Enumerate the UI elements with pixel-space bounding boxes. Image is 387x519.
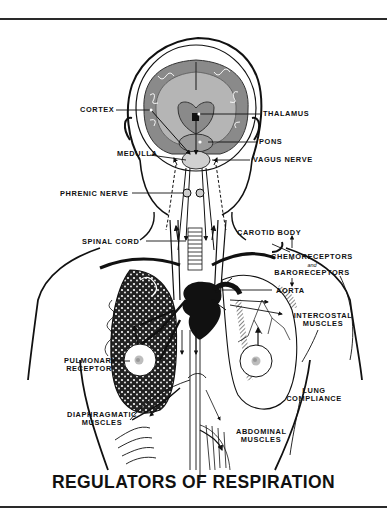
label-vagus-nerve: VAGUS NERVE <box>253 156 313 164</box>
trachea <box>188 228 202 270</box>
diagram-title: REGULATORS OF RESPIRATION <box>0 472 387 493</box>
label-lung-compliance: LUNG COMPLIANCE <box>284 387 344 403</box>
left-lung <box>105 270 177 413</box>
label-medulla: MEDULLA <box>117 150 157 158</box>
label-cortex: CORTEX <box>80 106 114 114</box>
label-diaphragmatic-muscles: DIAPHRAGMATIC MUSCLES <box>66 411 138 427</box>
label-chemo-baro-receptors: CHEMORECEPTORS and BARORECEPTORS <box>270 253 354 277</box>
label-phrenic-nerve: PHRENIC NERVE <box>60 190 128 198</box>
right-clavicle <box>212 254 275 265</box>
label-carotid-body: CAROTID BODY <box>237 229 301 237</box>
left-clavicle <box>100 259 180 268</box>
label-abdominal-line2: MUSCLES <box>236 436 286 444</box>
label-spinal-cord: SPINAL CORD <box>82 238 139 246</box>
label-diaphragmatic-line2: MUSCLES <box>66 419 138 427</box>
label-pons: PONS <box>259 138 282 146</box>
abdominal-muscle <box>200 390 230 470</box>
label-intercostal-line2: MUSCLES <box>290 320 356 328</box>
label-pulmonary-receptor: PULMONARY RECEPTOR <box>64 357 114 373</box>
label-thalamus: THALAMUS <box>263 110 309 118</box>
label-lung-compliance-line2: COMPLIANCE <box>284 395 344 403</box>
label-aorta: AORTA <box>276 287 305 295</box>
label-abdominal-muscles: ABDOMINAL MUSCLES <box>236 428 286 444</box>
descending-vessels <box>182 330 200 480</box>
label-chemoreceptors: CHEMORECEPTORS <box>270 253 354 261</box>
label-intercostal-muscles: INTERCOSTAL MUSCLES <box>290 312 356 328</box>
label-pulmonary-line2: RECEPTOR <box>64 365 114 373</box>
label-baroreceptors: BARORECEPTORS <box>270 269 354 277</box>
